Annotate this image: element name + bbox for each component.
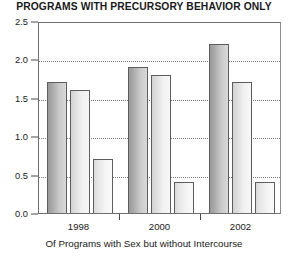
y-tick-mark <box>31 22 38 23</box>
bar-2002-bar-2 <box>232 82 252 213</box>
bar-2000-bar-2 <box>151 75 171 213</box>
y-tick-label: 2.0 <box>15 55 28 65</box>
x-tick-mark <box>119 214 120 220</box>
x-tick-label-2000: 2000 <box>149 221 170 232</box>
y-tick-mark <box>31 137 38 138</box>
y-tick-label: 0.5 <box>15 171 28 181</box>
y-tick-label: 1.5 <box>15 94 28 104</box>
y-tick-label: 1.0 <box>15 132 28 142</box>
y-tick-mark <box>31 175 38 176</box>
y-axis: 0.00.51.01.52.02.5 <box>0 0 38 257</box>
bar-2002-bar-3 <box>255 182 275 213</box>
y-tick-mark <box>31 98 38 99</box>
bar-2000-bar-1 <box>128 67 148 213</box>
bar-group-1998 <box>39 23 128 213</box>
y-tick-mark <box>31 214 38 215</box>
x-tick-label-1998: 1998 <box>68 221 89 232</box>
bars-layer <box>39 23 280 213</box>
bar-group-2002 <box>201 23 281 213</box>
x-tick-mark <box>200 214 201 220</box>
bar-1998-bar-3 <box>93 159 113 213</box>
plot-area <box>38 22 281 214</box>
chart-title: PROGRAMS WITH PRECURSORY BEHAVIOR ONLY <box>0 1 288 12</box>
bar-1998-bar-2 <box>70 90 90 213</box>
x-tick-label-2002: 2002 <box>230 221 251 232</box>
bar-1998-bar-1 <box>47 82 67 213</box>
bar-2002-bar-1 <box>209 44 229 213</box>
chart-container: PROGRAMS WITH PRECURSORY BEHAVIOR ONLY 0… <box>0 0 288 257</box>
y-tick-mark <box>31 60 38 61</box>
bar-2000-bar-3 <box>174 182 194 213</box>
bar-group-2000 <box>120 23 209 213</box>
y-tick-label: 0.0 <box>15 209 28 219</box>
x-axis-caption: Of Programs with Sex but without Interco… <box>0 238 288 249</box>
y-tick-label: 2.5 <box>15 17 28 27</box>
